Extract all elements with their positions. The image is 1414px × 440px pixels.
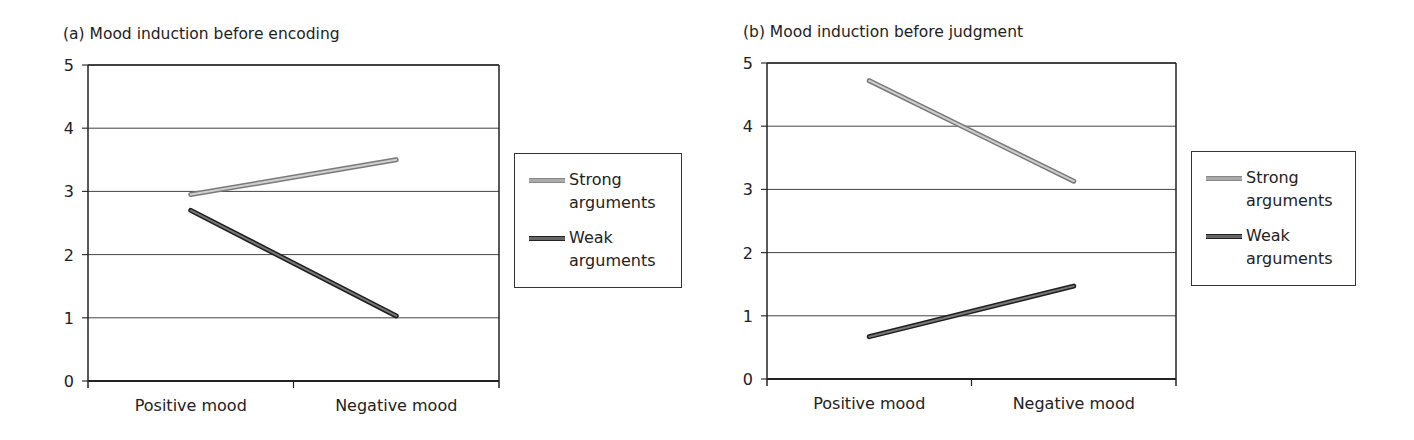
legend: Strong arguments Weak arguments bbox=[1191, 151, 1356, 286]
legend-item-weak: Weak arguments bbox=[1206, 224, 1342, 270]
legend-label: Weak arguments bbox=[1246, 224, 1342, 270]
y-tick-label: 0 bbox=[743, 370, 753, 389]
legend-item-strong: Strong arguments bbox=[1206, 166, 1342, 212]
x-tick-label: Positive mood bbox=[813, 394, 925, 413]
y-tick-label: 2 bbox=[743, 244, 753, 263]
y-tick-label: 4 bbox=[743, 117, 753, 136]
y-tick-label: 3 bbox=[743, 180, 753, 199]
strong-line-swatch-icon bbox=[1206, 176, 1242, 181]
strong-arguments-line bbox=[869, 81, 1074, 181]
weak-arguments-line bbox=[869, 286, 1074, 337]
y-tick-label: 5 bbox=[743, 54, 753, 73]
y-tick-label: 1 bbox=[743, 307, 753, 326]
weak-line-swatch-icon bbox=[1206, 234, 1242, 239]
legend-label: Strong arguments bbox=[1246, 166, 1342, 212]
x-tick-label: Negative mood bbox=[1013, 394, 1135, 413]
